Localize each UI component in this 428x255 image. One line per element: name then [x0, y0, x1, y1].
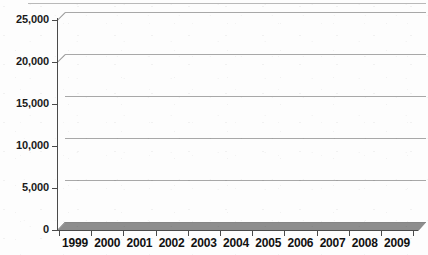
bar-series: 15,71918,85719,64721,37821,65422,99022,7… — [0, 0, 428, 255]
plot-area: 05,00010,00015,00020,00025,000 15,71918,… — [0, 0, 428, 255]
column-chart: 05,00010,00015,00020,00025,000 15,71918,… — [0, 0, 428, 255]
